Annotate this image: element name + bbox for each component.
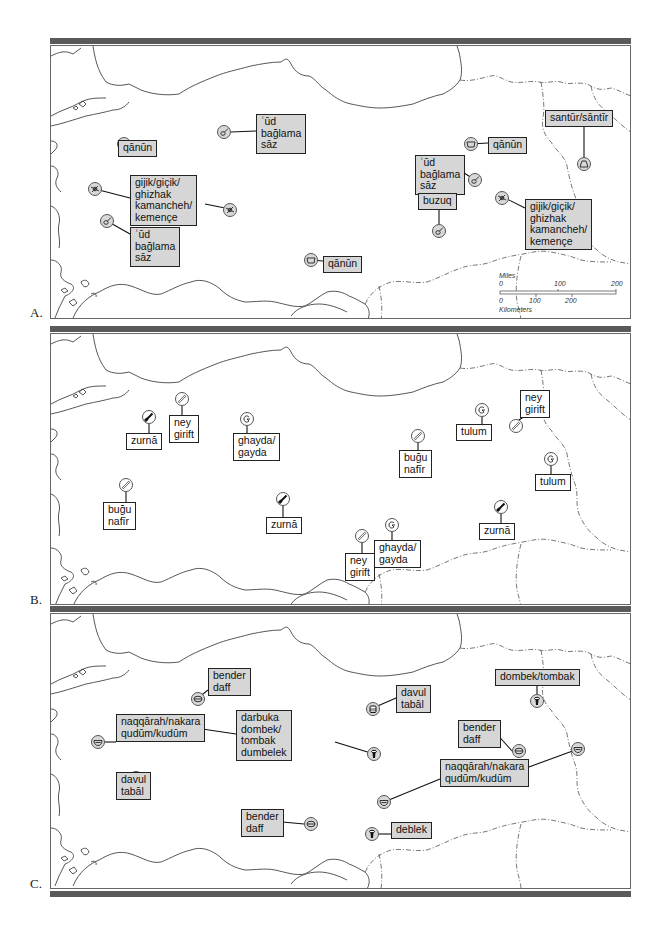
instrument-label: ghayda/ gayda <box>233 433 280 461</box>
panel-c-letter: C. <box>30 876 42 892</box>
box-zither-icon <box>304 253 318 267</box>
instrument-label: gijik/giçik/ ghizhak kamancheh/ kemençe <box>525 199 592 250</box>
map-panel-a: qānūnʿūd bağlama sāzgijik/giçik/ ghizhak… <box>50 45 631 319</box>
lute-icon <box>432 224 446 238</box>
instrument-label: buğu nafīr <box>103 502 136 530</box>
goblet-drum-icon <box>367 747 381 761</box>
miles-tick-0: 0 <box>499 280 503 287</box>
miles-tick-200: 200 <box>611 280 623 287</box>
instrument-label: deblek <box>391 822 432 839</box>
flute-icon <box>509 419 523 433</box>
panel-b-top-bar <box>50 326 631 332</box>
lute-icon <box>217 125 231 139</box>
instrument-label: naqqārah/nakara qudūm/kudūm <box>116 714 205 742</box>
miles-tick-100: 100 <box>554 280 566 287</box>
box-zither-icon <box>464 137 478 151</box>
bagpipe-icon <box>240 412 254 426</box>
km-tick-200: 200 <box>565 297 577 304</box>
instrument-label: buzuq <box>418 193 457 210</box>
bagpipe-icon <box>385 518 399 532</box>
instrument-label: gijik/giçik/ ghizhak kamancheh/ kemençe <box>130 175 197 226</box>
flute-icon <box>411 429 425 443</box>
frame-drum-icon <box>512 744 526 758</box>
turkey-outline-map <box>51 614 631 889</box>
kettle-drum-icon <box>91 735 105 749</box>
shawm-icon <box>142 410 156 424</box>
instrument-label: bender daff <box>458 720 501 748</box>
instrument-label: qānūn <box>323 256 362 273</box>
instrument-label: davul tabāl <box>116 772 151 800</box>
double-headed-drum-icon <box>366 702 380 716</box>
instrument-label: ʿūd bağlama sāz <box>415 155 465 195</box>
instrument-label: qānūn <box>118 140 157 157</box>
km-tick-100: 100 <box>529 297 541 304</box>
flute-icon <box>175 392 189 406</box>
instrument-label: buğu nafīr <box>399 450 432 478</box>
dulcimer-icon <box>577 157 591 171</box>
bottom-bar <box>50 891 631 897</box>
panel-b-letter: B. <box>30 592 42 608</box>
bagpipe-icon <box>475 403 489 417</box>
lute-icon <box>100 214 114 228</box>
kettle-drum-icon <box>571 742 585 756</box>
flute-icon <box>355 529 369 543</box>
panel-a-top-bar <box>50 38 631 44</box>
instrument-label: qānūn <box>488 137 527 154</box>
instrument-label: tulum <box>535 474 571 491</box>
shawm-icon <box>494 500 508 514</box>
instrument-label: naqqārah/nakara qudūm/kudūm <box>440 759 529 787</box>
kettle-drum-icon <box>377 795 391 809</box>
spike-fiddle-icon <box>223 203 237 217</box>
instrument-label: zurnā <box>479 523 515 540</box>
kilometers-label: Kilometers <box>499 306 532 313</box>
map-panel-c: bender daffnaqqārah/nakara qudūm/kudūmda… <box>50 613 631 889</box>
instrument-label: dombek/tombak <box>495 669 580 686</box>
instrument-label: ghayda/ gayda <box>374 540 421 568</box>
shawm-icon <box>276 492 290 506</box>
map-panel-b: zurnāney giriftghayda/ gaydabuğu nafīrzu… <box>50 333 631 605</box>
spike-fiddle-icon <box>495 191 509 205</box>
instrument-label: ʿūd bağlama sāz <box>256 114 306 154</box>
instrument-label: ney girift <box>520 390 550 418</box>
instrument-label: bender daff <box>208 668 251 696</box>
miles-label: Miles <box>499 272 515 279</box>
goblet-drum-icon <box>530 694 544 708</box>
instrument-label: darbuka dombek/ tombak dumbelek <box>236 710 292 761</box>
scale-bar-graphic <box>499 289 624 297</box>
bagpipe-icon <box>544 452 558 466</box>
instrument-label: zurnā <box>266 517 302 534</box>
goblet-drum-icon <box>365 827 379 841</box>
instrument-label: santūr/sāntīr <box>545 110 613 127</box>
instrument-label: tulum <box>456 424 492 441</box>
frame-drum-icon <box>304 817 318 831</box>
frame-drum-icon <box>191 692 205 706</box>
instrument-label: zurnā <box>126 433 162 450</box>
instrument-label: ʿūd bağlama sāz <box>130 227 180 267</box>
panel-c-top-bar <box>50 606 631 612</box>
spike-fiddle-icon <box>88 182 102 196</box>
instrument-label: davul tabāl <box>396 685 431 713</box>
flute-icon <box>119 478 133 492</box>
lute-icon <box>468 173 482 187</box>
scale-bar: Miles 0 100 200 0 100 200 Kilometers <box>499 272 624 318</box>
instrument-label: ney girift <box>169 415 199 443</box>
panel-a-letter: A. <box>30 305 43 321</box>
km-tick-0: 0 <box>499 297 503 304</box>
instrument-label: ney girift <box>345 553 375 581</box>
turkey-outline-map <box>51 334 631 605</box>
instrument-label: bender daff <box>241 809 284 837</box>
